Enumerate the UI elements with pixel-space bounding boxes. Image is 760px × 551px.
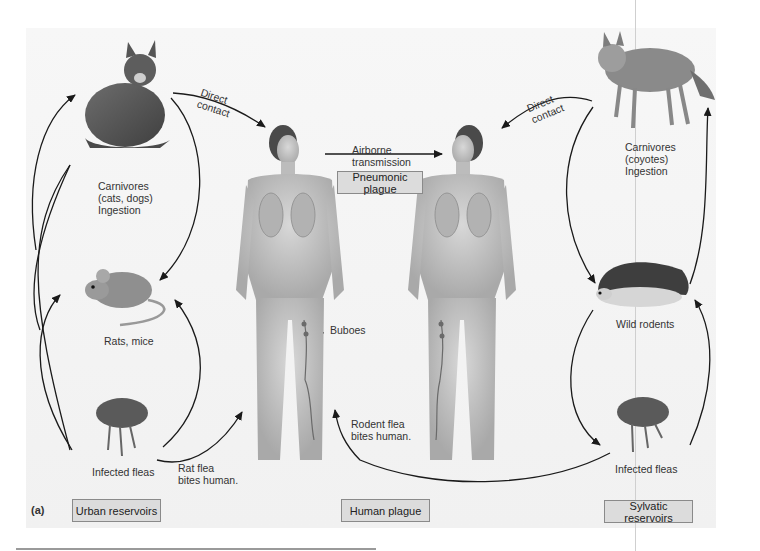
label-line: Ingestion [625, 165, 676, 177]
urban-fleas-label: Infected fleas [92, 466, 154, 478]
urban-rodents-label: Rats, mice [104, 335, 154, 347]
label-line: Airborne [352, 144, 411, 156]
flea-illustration [96, 398, 148, 456]
human-plague-box: Human plague [341, 499, 430, 522]
airborne-label: Airborne transmission [352, 144, 411, 168]
sylvatic-rodents-label: Wild rodents [616, 318, 674, 330]
label-line: (coyotes) [625, 153, 676, 165]
label-line: Carnivores [625, 141, 676, 153]
coyote-illustration [598, 31, 715, 128]
rodent-flea-bite-label: Rodent flea bites human. [351, 418, 411, 442]
urban-carnivores-label: Carnivores (cats, dogs) Ingestion [98, 180, 153, 216]
urban-reservoirs-box: Urban reservoirs [72, 499, 161, 522]
flea-illustration [617, 397, 669, 452]
label-line: Ingestion [98, 204, 153, 216]
panel-label: (a) [31, 504, 44, 516]
sylvatic-fleas-label: Infected fleas [615, 463, 677, 475]
label-line: (cats, dogs) [98, 192, 153, 204]
label-line: Carnivores [98, 180, 153, 192]
pneumonic-plague-box: Pneumonic plague [337, 171, 423, 194]
human-figure-illustration [408, 125, 516, 460]
sylvatic-carnivores-label: Carnivores (coyotes) Ingestion [625, 141, 676, 177]
label-line: transmission [352, 156, 411, 168]
label-line: bites human. [351, 430, 411, 442]
sylvatic-reservoirs-box: Sylvatic reservoirs [604, 500, 693, 523]
buboes-label: Buboes [330, 324, 366, 336]
rat-illustration [85, 269, 164, 325]
wild-rodent-illustration [596, 262, 689, 307]
human-figure-illustration [236, 125, 344, 460]
rat-flea-bite-label: Rat flea bites human. [178, 462, 238, 486]
label-line: Rodent flea [351, 418, 411, 430]
label-line: bites human. [178, 474, 238, 486]
cat-illustration [85, 40, 170, 148]
label-line: Rat flea [178, 462, 238, 474]
